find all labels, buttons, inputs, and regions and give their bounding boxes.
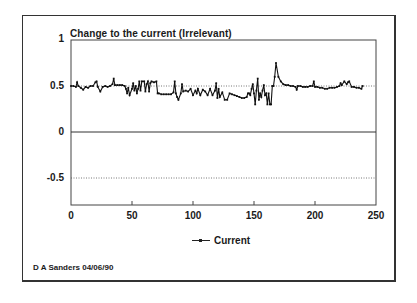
y-tick-0: 0: [34, 126, 64, 137]
plot-area: [0, 0, 417, 303]
y-tick-neg-0.5: -0.5: [34, 172, 64, 183]
author-credit: D A Sanders 04/06/90: [33, 263, 113, 272]
legend-label-current: Current: [214, 235, 250, 246]
x-tick-250: 250: [361, 210, 391, 221]
x-tick-200: 200: [300, 210, 330, 221]
x-tick-50: 50: [117, 210, 147, 221]
legend-line-marker-icon: [192, 240, 210, 241]
y-tick-1: 1: [34, 33, 64, 44]
y-tick-0.5: 0.5: [34, 80, 64, 91]
x-tick-100: 100: [178, 210, 208, 221]
x-tick-marks: [132, 201, 315, 205]
plot-border: [71, 40, 376, 205]
x-tick-0: 0: [56, 210, 86, 221]
x-tick-150: 150: [239, 210, 269, 221]
chart-legend: Current: [192, 235, 250, 246]
